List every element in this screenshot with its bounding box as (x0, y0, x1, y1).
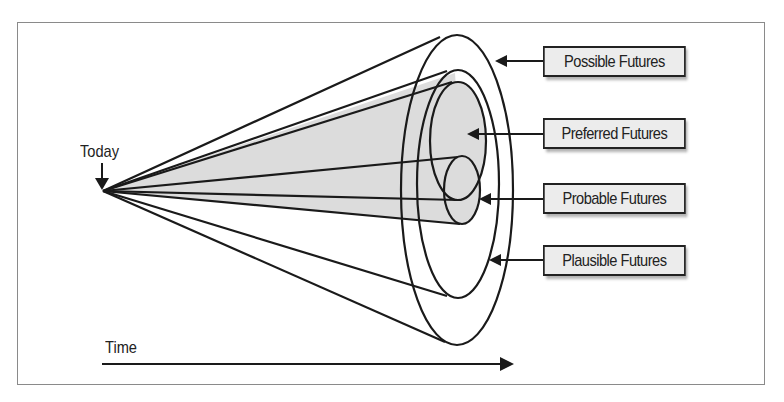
preferred-cone-shading (103, 73, 486, 224)
label-possible-futures: Possible Futures (543, 46, 686, 77)
label-plausible-futures: Plausible Futures (543, 245, 686, 276)
arrowhead-icon (495, 55, 507, 67)
right-arrow-icon (500, 357, 514, 371)
time-axis-label: Time (105, 338, 137, 358)
today-label: Today (80, 142, 119, 162)
time-axis (102, 357, 514, 371)
label-probable-futures: Probable Futures (543, 183, 686, 214)
label-preferred-futures: Preferred Futures (543, 118, 686, 149)
today-arrow (95, 163, 109, 190)
